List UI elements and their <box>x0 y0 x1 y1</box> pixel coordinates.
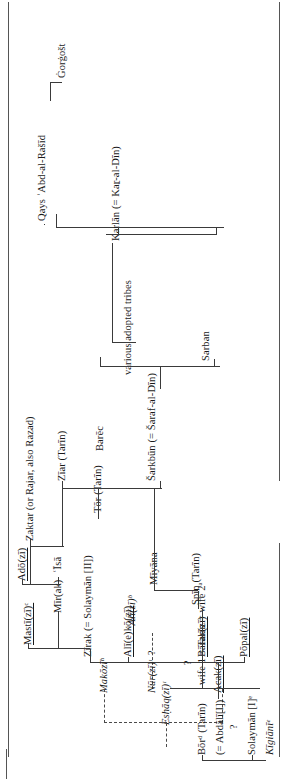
node-abdali: (= Abdālī[I]) <box>214 700 225 755</box>
connector-karlan-stem <box>112 342 136 343</box>
node-eshaqzi: Esḥāq(zī)ᶦ <box>160 682 171 725</box>
node-solayman1: Solaymān [I]ᵉ <box>246 696 257 755</box>
connector-bor-bus <box>202 760 266 761</box>
connector-karlan-arm <box>112 243 113 343</box>
node-gorgost: Ġorġošt <box>56 43 67 78</box>
node-adozi: Adō(zī) <box>16 548 27 581</box>
node-sarkbun: Šarkbūn (= Šaraf-al-Dīn) <box>146 373 157 481</box>
connector-bor <box>202 755 203 761</box>
connector-popalzi <box>244 657 245 663</box>
connector-wife1-bus <box>170 688 204 689</box>
node-mirak: Mīr(ak) <box>52 580 63 613</box>
connector-alikozi <box>128 657 129 663</box>
connector-zaktar-stem <box>30 545 31 585</box>
connector-barec <box>100 357 101 367</box>
connector-gen2-sarban <box>216 227 217 235</box>
connector-spin-wives <box>202 609 203 689</box>
connector-acakzi <box>218 663 219 699</box>
node-makozi: Makōzīʰ <box>98 658 109 693</box>
node-karlan: Karlān (= Kaṟ-al-Dīn) <box>110 146 121 241</box>
connector-eshaqzi <box>166 723 167 747</box>
connector-sarkbun-bus <box>62 488 162 489</box>
connector-miyana-bus <box>154 590 198 591</box>
connector-gen2-karlan <box>118 227 119 235</box>
connector-miyana <box>154 489 155 591</box>
connector-tor <box>98 489 99 519</box>
node-qays: Qays ʿAbd-al-Rašīd <box>36 135 47 221</box>
node-alizi: ʿAlī(zī)ᵇ <box>126 596 137 629</box>
connector-ziar-down <box>62 487 63 547</box>
connector-ziar-stem <box>30 546 64 547</box>
connector-gorgost-arm <box>50 83 51 101</box>
node-isa: ʿĪsā <box>52 557 63 573</box>
connector-zirak <box>90 649 91 663</box>
connector-qays-stem <box>44 224 45 225</box>
connector-solayman1 <box>252 755 253 761</box>
node-barec: Barēc <box>94 426 105 451</box>
node-nurzi: Nūr(zī)ᶦ <box>146 660 157 693</box>
connector-gen2-bus <box>106 234 216 235</box>
uncertainty-marker-3: ? <box>182 661 193 665</box>
connector-mirak-stem <box>58 615 59 649</box>
connector-wife2-bus <box>202 688 260 689</box>
connector-sarkbun-stem <box>160 481 161 489</box>
node-various-adopted-tribes: various adopted tribes <box>122 280 133 375</box>
node-zaktar: Zaktar (or Rajar, also Razad) <box>24 416 35 541</box>
uncertainty-marker-2: ? <box>228 725 239 729</box>
connector-sarban-stem <box>214 359 215 367</box>
node-zirak: Zīrak (= Solaymān [II]) <box>82 555 93 657</box>
connector-qays-to-bus <box>56 214 57 228</box>
figure-top-rule <box>6 749 7 779</box>
node-kigiani: Kīgiānīᵉ <box>264 720 275 755</box>
genealogy-diagram: Qays ʿAbd-al-Rašīd Ġorġošt Karlān (= Kaṟ… <box>0 0 287 781</box>
connector-gorgost-stem <box>50 82 62 83</box>
connector-mastizi <box>28 643 29 649</box>
figure-bottom-rule <box>279 543 280 757</box>
figure-bottom-rule-2 <box>279 2 280 481</box>
node-ziar: Zīar (Tarīn) <box>56 431 67 481</box>
node-sarban: Sarban <box>200 331 211 361</box>
connector-sons-bus <box>56 227 224 228</box>
connector-sarkbun <box>160 367 161 389</box>
connector-adozi <box>22 579 23 585</box>
node-mastizi: Mastī(zī)ᶜ <box>22 603 33 645</box>
connector-mirak-bus <box>28 648 90 649</box>
figure-right-rule <box>8 2 9 757</box>
node-bor: Bōrᵈ (Tarīn) <box>196 703 207 755</box>
connector-makozi <box>104 689 105 723</box>
node-popalzi: Pōpal(zī) <box>238 618 249 657</box>
